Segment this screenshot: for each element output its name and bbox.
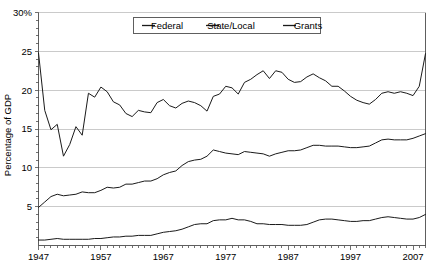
- y-tick-label-10: 10: [21, 162, 32, 173]
- line-chart: 51015202530% 194719571967197719871997200…: [0, 0, 436, 270]
- legend-label-federal: Federal: [151, 20, 183, 31]
- y-tick-label-20: 20: [21, 85, 32, 96]
- y-tick-label-5: 5: [27, 201, 32, 212]
- x-tick-label-1957: 1957: [90, 251, 111, 262]
- chart-background: [0, 0, 436, 270]
- x-tick-label-1987: 1987: [278, 251, 299, 262]
- chart-legend: FederalState/LocalGrants: [134, 18, 323, 34]
- x-tick-label-1967: 1967: [153, 251, 174, 262]
- y-tick-label-15: 15: [21, 123, 32, 134]
- y-tick-label-25: 25: [21, 46, 32, 57]
- x-tick-label-1997: 1997: [340, 251, 361, 262]
- x-tick-label-2007: 2007: [402, 251, 423, 262]
- y-tick-label-30: 30%: [13, 7, 33, 18]
- x-tick-label-1977: 1977: [215, 251, 236, 262]
- chart-container: 51015202530% 194719571967197719871997200…: [0, 0, 436, 270]
- legend-label-state-local: State/Local: [207, 20, 255, 31]
- x-tick-label-1947: 1947: [28, 251, 49, 262]
- y-axis-title: Percentage of GDP: [2, 94, 13, 176]
- legend-label-grants: Grants: [294, 20, 323, 31]
